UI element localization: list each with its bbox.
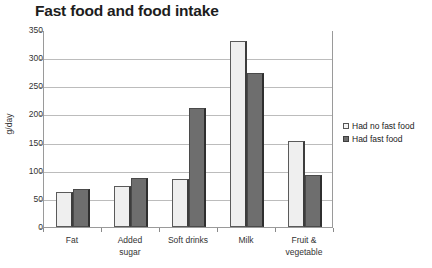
y-tick-label: 150 bbox=[9, 139, 43, 148]
legend-swatch-icon bbox=[343, 136, 349, 142]
bar bbox=[73, 189, 90, 227]
legend-item: Had no fast food bbox=[343, 120, 414, 131]
y-tick-label: 50 bbox=[9, 195, 43, 204]
y-tick-label: 100 bbox=[9, 167, 43, 176]
bar-chart: Fast food and food intake g/day 05010015… bbox=[0, 0, 432, 268]
chart-legend: Had no fast foodHad fast food bbox=[343, 120, 414, 146]
bar bbox=[230, 41, 247, 227]
legend-label: Had no fast food bbox=[352, 121, 414, 131]
bar bbox=[288, 141, 305, 227]
bar bbox=[247, 73, 264, 227]
y-tick-label: 200 bbox=[9, 110, 43, 119]
gridline bbox=[44, 59, 332, 60]
gridline bbox=[44, 115, 332, 116]
legend-label: Had fast food bbox=[352, 134, 403, 144]
legend-item: Had fast food bbox=[343, 133, 414, 144]
y-axis: 050100150200250300350 bbox=[0, 0, 43, 268]
legend-swatch-icon bbox=[343, 123, 349, 129]
gridline bbox=[44, 87, 332, 88]
bar bbox=[114, 186, 131, 227]
x-tick-mark bbox=[217, 228, 218, 232]
bar bbox=[189, 108, 206, 227]
x-category-label: Fruit & vegetable bbox=[267, 234, 341, 258]
x-tick-mark bbox=[333, 228, 334, 232]
x-tick-mark bbox=[43, 228, 44, 232]
bar bbox=[131, 178, 148, 227]
y-tick-label: 350 bbox=[9, 26, 43, 35]
bar bbox=[305, 175, 322, 227]
y-tick-label: 0 bbox=[9, 223, 43, 232]
y-tick-label: 300 bbox=[9, 54, 43, 63]
y-tick-label: 250 bbox=[9, 82, 43, 91]
bar bbox=[56, 192, 73, 227]
x-tick-mark bbox=[159, 228, 160, 232]
x-tick-mark bbox=[275, 228, 276, 232]
bar bbox=[172, 179, 189, 227]
plot-area bbox=[43, 31, 333, 228]
chart-title: Fast food and food intake bbox=[35, 2, 219, 20]
x-tick-mark bbox=[101, 228, 102, 232]
